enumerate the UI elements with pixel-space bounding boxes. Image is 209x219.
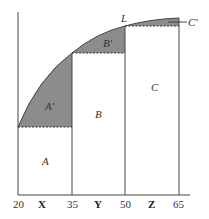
segment-y: Y	[94, 198, 102, 210]
diagram-canvas: A B C A' B' C' L 20 35 50 65 X Y Z	[0, 0, 209, 219]
label-b: B	[95, 108, 102, 120]
shaded-region-a-prime	[18, 53, 72, 127]
label-a: A	[41, 155, 49, 167]
label-curve-l: L	[120, 12, 127, 24]
label-c-prime: C'	[188, 16, 198, 28]
label-b-prime: B'	[103, 37, 113, 49]
segment-x: X	[38, 198, 46, 210]
tick-20: 20	[13, 198, 25, 210]
label-a-prime: A'	[44, 100, 55, 112]
tick-50: 50	[120, 198, 132, 210]
shaded-region-b-prime	[72, 26, 125, 53]
label-c: C	[151, 81, 159, 93]
tick-65: 65	[173, 198, 185, 210]
segment-z: Z	[148, 198, 155, 210]
tick-35: 35	[67, 198, 79, 210]
